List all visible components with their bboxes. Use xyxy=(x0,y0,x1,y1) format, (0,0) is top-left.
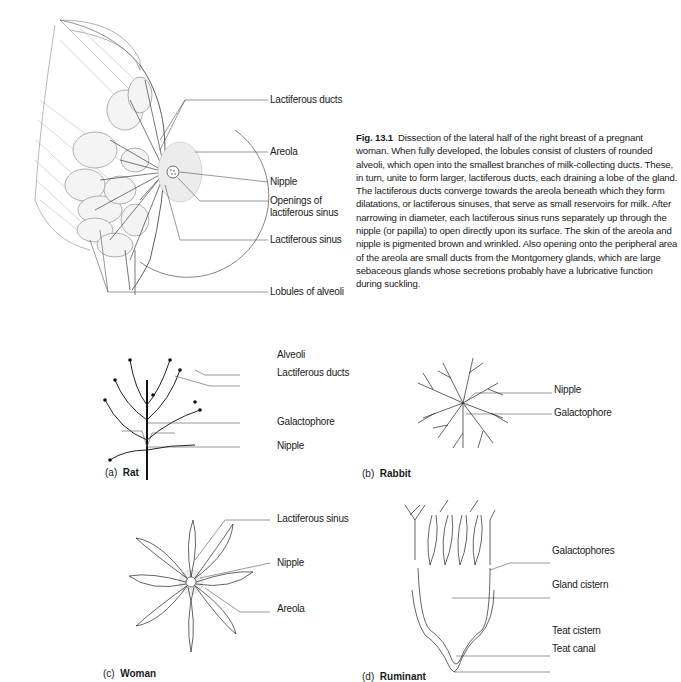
panel-a-name: Rat xyxy=(123,467,139,478)
rat-label-lactiferous-ducts: Lactiferous ducts xyxy=(277,367,349,379)
panel-b-name: Rabbit xyxy=(380,468,411,479)
panel-a-letter: (a) xyxy=(105,467,117,478)
panel-a-caption: (a) Rat xyxy=(105,467,139,478)
label-lobules-of-alveoli: Lobules of alveoli xyxy=(270,286,344,298)
rat-label-nipple: Nipple xyxy=(277,440,304,452)
ruminant-label-gland-cistern: Gland cistern xyxy=(552,579,608,591)
figure-number: Fig. 13.1 xyxy=(356,132,393,143)
woman-label-lactiferous-sinus: Lactiferous sinus xyxy=(277,513,349,525)
label-lactiferous-ducts: Lactiferous ducts xyxy=(270,94,342,106)
ruminant-duct-diagram xyxy=(405,500,550,672)
rabbit-label-nipple: Nipple xyxy=(554,384,581,396)
label-areola: Areola xyxy=(270,146,298,158)
panel-c-letter: (c) xyxy=(103,668,115,679)
panel-d-name: Ruminant xyxy=(380,671,426,682)
ruminant-label-teat-cistern: Teat cistern xyxy=(552,625,601,637)
panel-d-letter: (d) xyxy=(362,671,374,682)
label-lactiferous-sinus: Lactiferous sinus xyxy=(270,234,342,246)
ruminant-label-galactophores: Galactophores xyxy=(552,545,614,557)
rat-label-alveoli: Alveoli xyxy=(277,349,305,361)
panel-d-caption: (d) Ruminant xyxy=(362,671,426,682)
figure-caption-text: Dissection of the lateral half of the ri… xyxy=(356,132,677,289)
woman-duct-diagram xyxy=(129,520,270,652)
rat-duct-diagram xyxy=(103,358,240,480)
rabbit-duct-diagram xyxy=(418,358,552,448)
label-nipple: Nipple xyxy=(270,176,297,188)
panel-b-caption: (b) Rabbit xyxy=(362,468,411,479)
label-lactiferous-sinus-openings: lactiferous sinus xyxy=(270,207,338,219)
panel-c-name: Woman xyxy=(120,668,156,679)
figure-caption: Fig. 13.1 Dissection of the lateral half… xyxy=(356,131,678,291)
woman-label-nipple: Nipple xyxy=(277,557,304,569)
panel-c-caption: (c) Woman xyxy=(103,668,156,679)
rat-label-galactophore: Galactophore xyxy=(277,416,335,428)
ruminant-label-teat-canal: Teat canal xyxy=(552,643,596,655)
label-openings-of: Openings of xyxy=(270,195,322,207)
rabbit-label-galactophore: Galactophore xyxy=(554,407,612,419)
woman-label-areola: Areola xyxy=(277,603,305,615)
breast-dissection-illustration xyxy=(35,20,269,295)
panel-b-letter: (b) xyxy=(362,468,374,479)
